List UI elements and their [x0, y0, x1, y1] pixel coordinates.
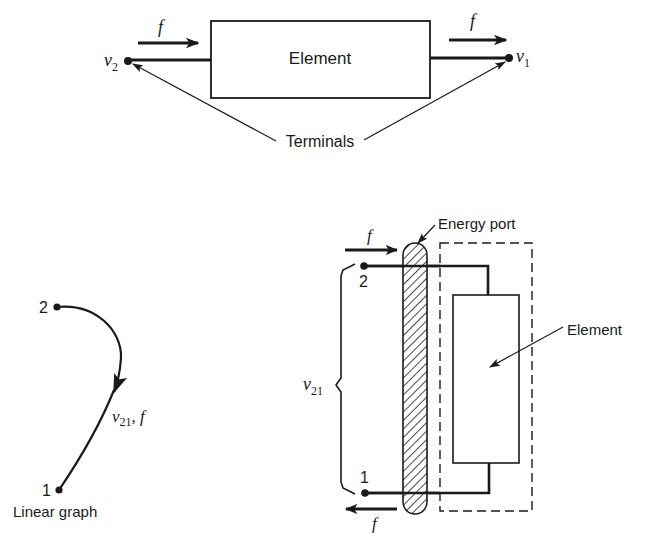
energy-port-figure: Element v2 v1 f f Terminals 2 1 v21, f: [0, 0, 650, 546]
graph-node-2-label: 2: [39, 299, 48, 316]
energy-port-leader: [418, 225, 435, 243]
energy-port-pill: [403, 243, 427, 514]
element-label: Element: [289, 49, 352, 68]
brace-label-v21: v21: [303, 374, 323, 398]
port-element-box: [453, 295, 519, 463]
terminal-dot-right: [505, 54, 513, 62]
port-node-1-label: 1: [360, 469, 369, 486]
port-flow-in-label: f: [367, 226, 374, 245]
port-flow-out-label: f: [372, 514, 379, 533]
terminals-leader-left: [133, 64, 276, 141]
terminals-leader-right: [364, 62, 505, 140]
flow-label-right: f: [470, 11, 478, 31]
voltage-brace: [336, 264, 355, 494]
terminal-dot-left: [124, 57, 132, 65]
graph-edge-upper: [57, 307, 121, 392]
linear-graph-caption: Linear graph: [13, 503, 97, 520]
top-element-diagram: Element v2 v1 f f Terminals: [104, 11, 530, 150]
port-node-2-label: 2: [359, 273, 368, 290]
terminal-label-v2: v2: [104, 50, 118, 74]
port-node-2: [360, 262, 368, 270]
terminals-label: Terminals: [286, 133, 354, 150]
terminal-label-v1: v1: [516, 46, 530, 70]
graph-edge-label: v21, f: [112, 407, 147, 429]
graph-node-2: [53, 303, 60, 310]
port-node-1: [361, 489, 369, 497]
energy-port-label: Energy port: [438, 215, 516, 232]
flow-label-left: f: [158, 17, 166, 37]
energy-port-diagram: 2 1 f f v21 Energy port Element: [303, 215, 623, 533]
graph-edge-lower: [59, 390, 114, 490]
graph-node-1-label: 1: [42, 482, 51, 499]
linear-graph: 2 1 v21, f Linear graph: [13, 299, 147, 520]
graph-node-1: [55, 486, 62, 493]
port-element-label: Element: [567, 321, 623, 338]
